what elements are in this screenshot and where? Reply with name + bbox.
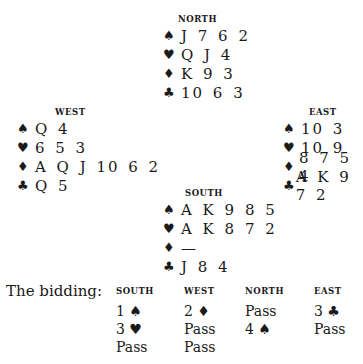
east-spades-row: ♠ 10 3 [283,119,363,138]
bid: 2 ♦ [184,302,216,320]
bidding-header-east: EAST [314,286,346,302]
bid: Pass [184,338,216,356]
bidding-header-north: NORTH [245,286,284,302]
south-diamonds-row: ♦ — [163,238,277,257]
south-clubs: J 8 4 [181,258,230,276]
heart-icon: ♥ [17,140,35,155]
bidding-intro: The bidding: [6,282,102,300]
bidding-column-north: NORTH Pass 4 ♠ [245,286,284,338]
east-hand: EAST ♠ 10 3 ♥ 10 9 ♦ 8 7 5 4 ♣ A K 9 7 2 [283,107,363,195]
diamond-icon: ♦ [163,240,181,255]
north-hearts-row: ♥ Q J 4 [163,45,250,64]
bid: 4 ♠ [245,320,284,338]
north-label: NORTH [178,14,250,24]
bid: Pass [184,320,216,338]
club-icon: ♣ [163,259,181,274]
west-spades: Q 4 [35,120,70,138]
west-diamonds-row: ♦ A Q J 10 6 2 [17,157,160,176]
south-clubs-row: ♣ J 8 4 [163,257,277,276]
north-diamonds-row: ♦ K 9 3 [163,64,250,83]
spade-icon: ♠ [283,121,301,136]
north-clubs: 10 6 3 [181,84,245,102]
bid: Pass [245,302,284,320]
bid: Pass [314,320,346,338]
west-spades-row: ♠ Q 4 [17,119,160,138]
east-clubs-row: ♣ A K 9 7 2 [283,176,363,195]
west-hand: WEST ♠ Q 4 ♥ 6 5 3 ♦ A Q J 10 6 2 ♣ Q 5 [17,107,160,195]
west-clubs: Q 5 [35,177,70,195]
south-hand: SOUTH ♠ A K 9 8 5 ♥ A K 8 7 2 ♦ — ♣ J 8 … [163,188,277,276]
north-clubs-row: ♣ 10 6 3 [163,83,250,102]
east-spades: 10 3 [301,120,344,138]
heart-icon: ♥ [163,47,181,62]
west-hearts-row: ♥ 6 5 3 [17,138,160,157]
bidding-column-south: SOUTH 1 ♠ 3 ♥ Pass [116,286,154,356]
south-spades-row: ♠ A K 9 8 5 [163,200,277,219]
north-hand: NORTH ♠ J 7 6 2 ♥ Q J 4 ♦ K 9 3 ♣ 10 6 3 [163,14,250,102]
west-diamonds: A Q J 10 6 2 [35,158,160,176]
club-icon: ♣ [163,85,181,100]
diamond-icon: ♦ [17,159,35,174]
south-hearts: A K 8 7 2 [181,220,277,238]
south-spades: A K 9 8 5 [181,201,277,219]
south-label: SOUTH [185,188,277,198]
bidding-column-west: WEST 2 ♦ Pass Pass [184,286,216,356]
bid: 3 ♣ [314,302,346,320]
heart-icon: ♥ [163,221,181,236]
club-icon: ♣ [283,178,296,193]
bidding-header-south: SOUTH [116,286,154,302]
spade-icon: ♠ [163,28,181,43]
west-hearts: 6 5 3 [35,139,87,157]
east-label: EAST [309,107,363,117]
diamond-icon: ♦ [163,66,181,81]
bidding-header-west: WEST [184,286,216,302]
south-diamonds: — [181,239,198,257]
bid: 3 ♥ [116,320,154,338]
north-spades: J 7 6 2 [181,27,250,45]
north-hearts: Q J 4 [181,46,232,64]
west-label: WEST [55,107,160,117]
east-clubs: A K 9 7 2 [296,168,363,204]
south-hearts-row: ♥ A K 8 7 2 [163,219,277,238]
west-clubs-row: ♣ Q 5 [17,176,160,195]
north-diamonds: K 9 3 [181,65,235,83]
spade-icon: ♠ [163,202,181,217]
bid: Pass [116,338,154,356]
bidding-column-east: EAST 3 ♣ Pass [314,286,346,338]
spade-icon: ♠ [17,121,35,136]
bid: 1 ♠ [116,302,154,320]
club-icon: ♣ [17,178,35,193]
north-spades-row: ♠ J 7 6 2 [163,26,250,45]
